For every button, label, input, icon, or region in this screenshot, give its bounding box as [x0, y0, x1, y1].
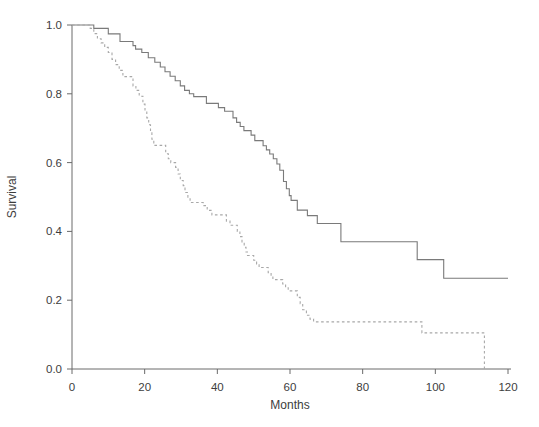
x-tick-label: 120: [498, 381, 517, 393]
y-axis-title: Survival: [5, 176, 19, 219]
survival-curve-dashed: [72, 25, 484, 369]
x-tick-label: 40: [211, 381, 224, 393]
y-tick-label: 1.0: [46, 19, 62, 31]
y-tick-label: 0.8: [46, 88, 62, 100]
x-tick-label: 60: [284, 381, 297, 393]
curves: [72, 25, 508, 369]
y-tick-label: 0.6: [46, 157, 62, 169]
survival-chart: 0204060801001200.00.20.40.60.81.0 Surviv…: [0, 0, 539, 427]
survival-curve-solid: [72, 25, 508, 278]
x-tick-label: 20: [138, 381, 151, 393]
figure-canvas: 0204060801001200.00.20.40.60.81.0 Surviv…: [0, 0, 539, 427]
x-tick-label: 80: [356, 381, 369, 393]
y-tick-label: 0.0: [46, 363, 62, 375]
axes: 0204060801001200.00.20.40.60.81.0: [46, 19, 518, 393]
y-tick-label: 0.2: [46, 294, 62, 306]
x-tick-label: 0: [69, 381, 75, 393]
x-axis-title: Months: [270, 398, 309, 412]
y-tick-label: 0.4: [46, 225, 63, 237]
x-tick-label: 100: [426, 381, 445, 393]
